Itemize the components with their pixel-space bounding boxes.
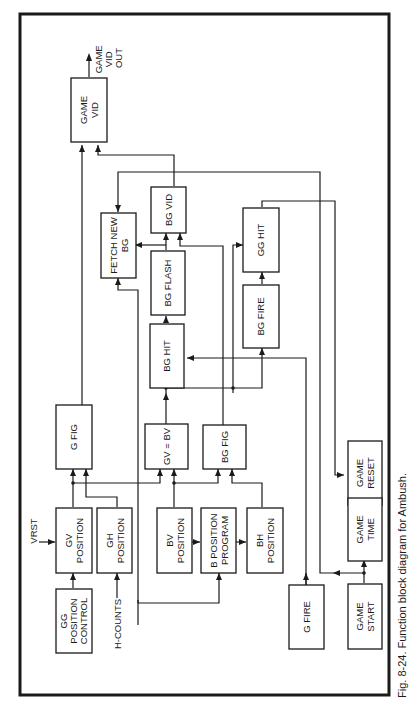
- block-gg-hit: GG HIT: [243, 208, 279, 272]
- svg-text:GV = BV: GV = BV: [161, 427, 172, 465]
- block-gg-position-control: GGPOSITIONCONTROL: [56, 589, 92, 653]
- signal-h-counts: H-COUNTS: [112, 599, 123, 649]
- block-gv-equals-bv: GV = BV: [145, 424, 188, 469]
- svg-text:BG VID: BG VID: [163, 194, 174, 226]
- block-bg-vid: BG VID: [151, 187, 186, 233]
- block-game-start: GAMESTART: [348, 584, 382, 649]
- svg-text:GAMERESET: GAMERESET: [354, 457, 376, 489]
- block-bh-position: BHPOSITION: [247, 508, 283, 573]
- block-g-fig: G FIG: [56, 405, 92, 469]
- svg-text:B POSITIONPROGRAM: B POSITIONPROGRAM: [208, 513, 230, 568]
- svg-text:BG FIG: BG FIG: [219, 431, 230, 463]
- block-gh-position: GHPOSITION: [97, 508, 132, 573]
- block-bg-flash: BG FLASH: [151, 251, 185, 315]
- svg-text:BG FIRE: BG FIRE: [255, 297, 266, 335]
- svg-text:G FIG: G FIG: [68, 424, 79, 450]
- block-game-reset: GAMERESET: [348, 441, 382, 505]
- svg-text:G FIRE: G FIRE: [301, 601, 312, 633]
- block-bg-fire: BG FIRE: [243, 285, 279, 348]
- ambush-block-diagram: GAMEVID BG VID FETCH NEWBG BG FLASH BG H…: [0, 0, 413, 716]
- svg-text:BG FLASH: BG FLASH: [162, 259, 173, 306]
- figure-caption: Fig. 8-24. Function block diagram for Am…: [396, 473, 408, 698]
- block-gv-position: GVPOSITION: [56, 508, 92, 573]
- svg-text:GG HIT: GG HIT: [255, 223, 266, 256]
- block-fetch-new-bg: FETCH NEWBG: [101, 213, 136, 278]
- block-bg-fig: BG FIG: [203, 425, 246, 469]
- svg-text:GAMESTART: GAMESTART: [354, 601, 376, 631]
- block-game-vid: GAMEVID: [71, 78, 107, 142]
- signal-vrst: VRST: [28, 518, 39, 544]
- block-g-fire: G FIRE: [289, 585, 324, 649]
- svg-text:GAMETIME: GAMETIME: [354, 516, 376, 544]
- block-bv-position: BVPOSITION: [157, 508, 192, 573]
- signal-game-vid-out: GAME VID OUT: [93, 43, 124, 74]
- block-bg-hit: BG HIT: [150, 324, 184, 388]
- block-b-position-program: B POSITIONPROGRAM: [201, 508, 236, 573]
- svg-text:BG HIT: BG HIT: [161, 340, 172, 372]
- block-game-time: GAMETIME: [348, 498, 382, 561]
